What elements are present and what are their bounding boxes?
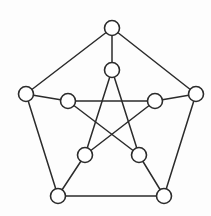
graph-edge-i1-i3 — [85, 101, 155, 155]
graph-edge-i2-i4 — [68, 101, 139, 155]
graph-vertex-o4 — [19, 87, 34, 102]
graph-edge-o3-o4 — [26, 94, 58, 196]
graph-vertex-i0 — [105, 63, 120, 78]
graph-edge-i3-i0 — [85, 70, 112, 155]
petersen-graph-figure — [0, 0, 211, 216]
graph-vertex-o0 — [105, 21, 120, 36]
graph-edge-o0-o1 — [112, 28, 196, 94]
vertex-layer — [19, 21, 204, 204]
graph-vertex-o3 — [51, 189, 66, 204]
graph-vertex-i2 — [132, 148, 147, 163]
graph-edge-i0-i2 — [112, 70, 139, 155]
graph-vertex-i4 — [61, 94, 76, 109]
graph-vertex-o2 — [157, 189, 172, 204]
graph-canvas — [0, 0, 211, 216]
graph-vertex-i1 — [148, 94, 163, 109]
graph-edge-o4-o0 — [26, 28, 112, 94]
graph-vertex-i3 — [78, 148, 93, 163]
graph-vertex-o1 — [189, 87, 204, 102]
edge-layer — [26, 28, 196, 196]
graph-edge-o1-o2 — [164, 94, 196, 196]
